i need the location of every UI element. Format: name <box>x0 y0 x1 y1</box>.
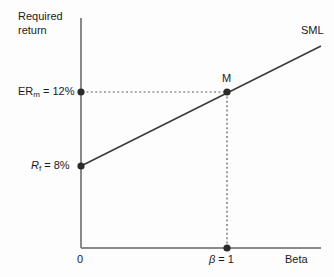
rf-point-marker <box>77 162 84 169</box>
sml-line-label: SML <box>301 24 324 37</box>
y-axis-title-line2: return <box>18 24 47 36</box>
sml-chart-svg <box>0 0 334 277</box>
market-point-marker <box>223 88 230 95</box>
y-axis-title-line1: Required <box>18 10 63 22</box>
erm-label-subscript: m <box>33 90 40 99</box>
y-axis-title: Required return <box>18 9 80 37</box>
erm-label-value: = 12% <box>40 85 75 97</box>
origin-tick-label: 0 <box>77 253 83 266</box>
erm-point-marker <box>77 88 84 95</box>
rf-label-value: = 8% <box>41 159 69 171</box>
sml-line <box>81 46 321 166</box>
rf-axis-label: Rf = 8% <box>31 159 70 173</box>
rf-label-prefix: R <box>31 159 39 171</box>
erm-axis-label: ERm = 12% <box>18 85 75 99</box>
beta-one-tick-label: β = 1 <box>209 253 234 266</box>
erm-label-prefix: ER <box>18 85 33 97</box>
beta-one-value: = 1 <box>215 253 234 265</box>
chart-canvas: Required return ERm = 12% Rf = 8% 0 β = … <box>0 0 334 277</box>
beta-one-axis-marker <box>223 244 230 251</box>
rf-label-subscript: f <box>39 164 41 173</box>
x-axis-title: Beta <box>285 253 308 266</box>
market-point-label: M <box>222 72 231 85</box>
